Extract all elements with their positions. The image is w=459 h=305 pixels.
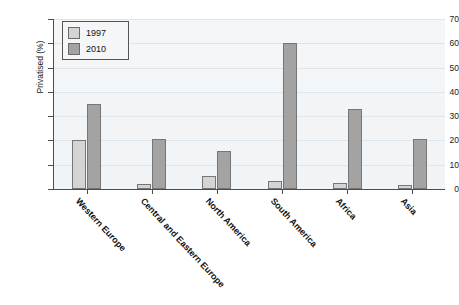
legend-swatch-1997	[68, 27, 80, 39]
bar-1997-north-america	[202, 176, 216, 189]
bar-1997-western-europe	[72, 140, 86, 189]
legend-swatch-2010	[68, 43, 80, 55]
x-axis-label-western-europe: Western Europe	[73, 196, 127, 253]
y-axis-title: Privatised (%)	[35, 0, 45, 147]
x-axis-label-south-america: South America	[269, 196, 319, 249]
legend-label-1997: 1997	[86, 27, 106, 39]
x-axis-label-asia: Asia	[399, 196, 419, 217]
bar-2010-western-europe	[87, 104, 101, 189]
x-axis-labels: Western EuropeCentral and Eastern Europe…	[0, 189, 459, 305]
bar-2010-asia	[413, 139, 427, 189]
x-axis-label-north-america: North America	[204, 196, 253, 248]
bar-1997-south-america	[268, 181, 282, 190]
bar-2010-central-and-eastern-europe	[152, 139, 166, 189]
bar-2010-africa	[348, 109, 362, 189]
legend-item-1997: 1997	[68, 26, 106, 40]
bar-2010-south-america	[283, 43, 297, 189]
x-axis-label-africa: Africa	[334, 196, 359, 221]
legend-item-2010: 2010	[68, 42, 106, 56]
bar-chart: Privatised (%) 010203040506070 1997 2010…	[0, 0, 459, 305]
legend: 1997 2010	[62, 21, 129, 60]
legend-label-2010: 2010	[86, 43, 106, 55]
bar-2010-north-america	[217, 151, 231, 189]
